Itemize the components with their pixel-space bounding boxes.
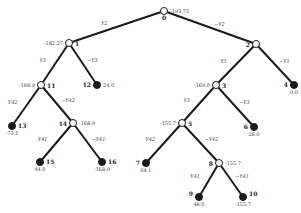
node-id: 8 xyxy=(209,160,213,167)
node-id: 3 xyxy=(222,82,226,89)
node-id: 10 xyxy=(249,190,257,197)
decision-node-marker xyxy=(179,120,186,127)
edge-label: Y42 xyxy=(145,136,155,142)
decision-node: 3-169.0 xyxy=(194,82,226,90)
node-value: -155.7 xyxy=(225,160,241,166)
node-id: 4 xyxy=(284,81,288,88)
edge-label: ~Y3 xyxy=(239,99,250,105)
node-id: 2 xyxy=(246,41,250,48)
tree-edge xyxy=(146,123,182,163)
edge-label: Y1 xyxy=(221,58,227,64)
node-id: 14 xyxy=(59,120,67,127)
node-value: 0.0 xyxy=(290,89,298,95)
edge-label: Y2 xyxy=(101,20,107,26)
leaf-node-marker xyxy=(251,124,258,131)
leaf-node: 13-73.1 xyxy=(6,122,27,136)
tree-edge xyxy=(256,44,294,85)
node-id: 6 xyxy=(244,123,248,130)
node-value: -73.1 xyxy=(6,130,19,136)
node-id: 7 xyxy=(136,159,140,166)
tree-edge xyxy=(69,11,164,43)
node-value: 24.0 xyxy=(103,82,114,88)
edge-label: ~Y41 xyxy=(92,136,106,142)
leaf-node: 764.1 xyxy=(136,159,152,173)
leaf-node-marker xyxy=(9,123,16,130)
node-id: 5 xyxy=(188,120,192,127)
decision-tree-diagram: Y2~Y2Y3~Y3Y42~Y42Y41~Y41Y1~Y1Y3~Y3Y42~Y4… xyxy=(0,0,301,213)
node-id: 1 xyxy=(75,40,79,47)
leaf-node-marker xyxy=(37,159,44,166)
decision-node: 14-168.9 xyxy=(59,120,95,128)
edge-label: Y41 xyxy=(38,136,48,142)
edge-label: Y42 xyxy=(8,99,18,105)
edge-label: ~Y2 xyxy=(214,21,225,27)
node-id: 15 xyxy=(46,158,54,165)
node-value: -182.27 xyxy=(44,40,63,46)
leaf-node: 1224.0 xyxy=(83,81,115,89)
node-value: -168.9 xyxy=(79,120,95,126)
tree-edge xyxy=(40,123,73,162)
leaf-node-marker xyxy=(240,194,247,201)
decision-node: 11-168.9 xyxy=(19,82,55,90)
edge-label: Y3 xyxy=(184,97,190,103)
node-value: 48.0 xyxy=(193,201,204,207)
edge-label: Y3 xyxy=(40,57,46,63)
tree-edges xyxy=(12,11,294,197)
tree-edge xyxy=(164,11,256,44)
node-id: 16 xyxy=(108,158,116,165)
edge-label: ~Y3 xyxy=(87,57,98,63)
node-value: -169.0 xyxy=(194,82,210,88)
leaf-node: 10-155.7 xyxy=(235,190,257,207)
decision-node-marker xyxy=(213,82,220,89)
tree-edge xyxy=(182,123,219,163)
tree-edge xyxy=(73,123,102,162)
edge-label: ~Y41 xyxy=(235,173,249,179)
leaf-node: 628.0 xyxy=(244,123,260,137)
decision-node: 5-155.7 xyxy=(160,120,192,128)
leaf-node-marker xyxy=(94,82,101,89)
tree-edge xyxy=(216,85,254,127)
decision-node-marker xyxy=(216,160,223,167)
tree-edge xyxy=(12,85,41,126)
leaf-node-marker xyxy=(99,159,106,166)
node-id: 9 xyxy=(189,190,193,197)
decision-node: 8-155.7 xyxy=(209,160,241,168)
node-id: 13 xyxy=(18,122,26,129)
edge-label: ~Y42 xyxy=(61,97,75,103)
leaf-node-marker xyxy=(143,160,150,167)
edge-label: Y41 xyxy=(190,173,200,179)
decision-node-marker xyxy=(66,40,73,47)
leaf-node-marker xyxy=(291,82,298,89)
tree-edge xyxy=(41,43,69,85)
node-value: -155.7 xyxy=(160,120,176,126)
tree-edge xyxy=(199,163,219,197)
tree-edge xyxy=(182,85,216,123)
leaf-node: 16-168.9 xyxy=(94,158,116,172)
tree-nodes: 0-193.751-182.2723-169.040.05-155.7628.0… xyxy=(6,8,298,208)
leaf-node: 1544.0 xyxy=(34,158,54,172)
node-id: 0 xyxy=(162,14,166,21)
decision-node-marker xyxy=(70,120,77,127)
leaf-node-marker xyxy=(196,194,203,201)
node-value: -193.75 xyxy=(170,8,189,14)
node-value: 64.1 xyxy=(140,167,151,173)
node-value: 28.0 xyxy=(248,131,259,137)
node-value: -168.9 xyxy=(19,82,35,88)
tree-edge xyxy=(41,85,73,123)
node-value: -155.7 xyxy=(235,201,251,207)
node-value: 44.0 xyxy=(34,166,45,172)
edge-label: ~Y42 xyxy=(205,136,219,142)
node-id: 12 xyxy=(83,81,91,88)
edge-label: ~Y1 xyxy=(279,58,290,64)
tree-edge xyxy=(219,163,243,197)
tree-edge xyxy=(216,44,256,85)
decision-node-marker xyxy=(253,41,260,48)
node-value: -168.9 xyxy=(94,166,110,172)
node-id: 11 xyxy=(47,82,55,89)
tree-edge xyxy=(69,43,97,85)
leaf-node: 40.0 xyxy=(284,81,298,95)
decision-node-marker xyxy=(38,82,45,89)
